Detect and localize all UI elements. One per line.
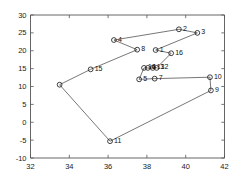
x-tick-label: 38 <box>143 162 151 171</box>
data-point-label: 2 <box>183 25 187 32</box>
tick-labels: 323436384042-10-5051015202530 <box>16 11 229 171</box>
tour-path <box>60 29 211 141</box>
data-point-label: 8 <box>141 45 145 52</box>
data-point-label: 11 <box>114 137 121 144</box>
y-tick-label: -5 <box>20 136 27 145</box>
x-tick-label: 34 <box>65 162 73 171</box>
data-point-label: 7 <box>159 74 163 81</box>
x-tick-label: 40 <box>182 162 190 171</box>
data-point-label: 1 <box>160 46 164 53</box>
data-point-label: 5 <box>143 75 147 82</box>
axes <box>31 15 225 158</box>
y-tick-label: 30 <box>18 11 26 20</box>
y-tick-label: 25 <box>18 28 26 37</box>
data-point-label: 13 <box>157 63 165 70</box>
data-point-label: 4 <box>118 36 122 43</box>
data-points <box>57 27 213 144</box>
y-tick-label: 20 <box>18 46 26 55</box>
y-tick-label: -10 <box>16 154 27 163</box>
y-tick-label: 5 <box>22 100 26 109</box>
tour-polyline <box>60 29 211 141</box>
scatter-plot-figure: 12345678910111213141516 323436384042-10-… <box>0 0 236 188</box>
y-tick-label: 0 <box>22 118 26 127</box>
data-point-label: 15 <box>95 65 103 72</box>
data-point-label: 14 <box>148 63 156 70</box>
data-point-label: 9 <box>215 86 219 93</box>
data-point-label: 16 <box>175 49 183 56</box>
x-tick-label: 36 <box>104 162 112 171</box>
x-tick-label: 42 <box>220 162 228 171</box>
y-tick-label: 15 <box>18 64 26 73</box>
data-point-label: 3 <box>201 28 205 35</box>
chart-canvas: 12345678910111213141516 323436384042-10-… <box>0 0 236 188</box>
y-tick-label: 10 <box>18 82 26 91</box>
x-tick-label: 32 <box>26 162 34 171</box>
data-point-label: 10 <box>214 73 222 80</box>
